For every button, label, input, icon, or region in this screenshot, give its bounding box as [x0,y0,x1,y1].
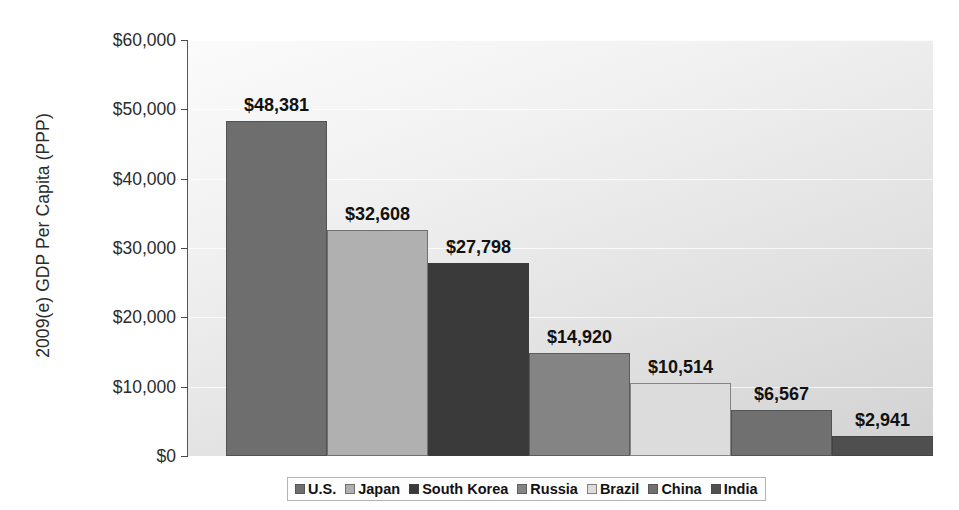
y-axis-tick-label: $10,000 [28,376,176,397]
legend-swatch-icon [409,484,419,494]
legend-item-south-korea[interactable]: South Korea [409,482,508,497]
bar-south-korea[interactable] [428,263,529,456]
y-axis-tick-label: $50,000 [28,99,176,120]
legend-item-china[interactable]: China [648,482,701,497]
legend-swatch-icon [517,484,527,494]
bar-value-label: $6,567 [754,384,809,405]
plot-area: $48,381$32,608$27,798$14,920$10,514$6,56… [188,40,933,456]
y-axis-tick-mark [181,248,188,249]
legend-label: Russia [530,482,578,497]
legend-item-russia[interactable]: Russia [517,482,578,497]
bar-india[interactable] [832,436,933,456]
legend-item-india[interactable]: India [711,482,758,497]
legend-label: China [661,482,701,497]
bar-value-label: $27,798 [446,237,511,258]
y-axis-tick-mark [181,387,188,388]
bar-value-label: $32,608 [345,204,410,225]
gdp-per-capita-bar-chart: 2009(e) GDP Per Capita (PPP) $0$10,000$2… [0,0,959,510]
legend-swatch-icon [648,484,658,494]
legend-label: U.S. [308,482,336,497]
bar-value-label: $48,381 [244,95,309,116]
y-axis-tick-mark [181,40,188,41]
y-axis-tick-label: $20,000 [28,307,176,328]
bar-brazil[interactable] [630,383,731,456]
legend-label: India [724,482,758,497]
y-axis-tick-label: $0 [28,446,176,467]
bar-china[interactable] [731,410,832,456]
y-axis-tick-labels: $0$10,000$20,000$30,000$40,000$50,000$60… [28,0,176,510]
bar-russia[interactable] [529,353,630,456]
legend-item-japan[interactable]: Japan [345,482,400,497]
bar-value-label: $10,514 [648,357,713,378]
legend-swatch-icon [587,484,597,494]
bar-u-s[interactable] [226,121,327,456]
bar-japan[interactable] [327,230,428,456]
y-axis-tick-mark [181,317,188,318]
bar-value-label: $14,920 [547,327,612,348]
y-axis-tick-label: $30,000 [28,238,176,259]
y-axis-tick-label: $60,000 [28,30,176,51]
legend-label: Brazil [600,482,640,497]
legend-swatch-icon [711,484,721,494]
legend-item-u-s[interactable]: U.S. [295,482,336,497]
y-axis-tick-mark [181,109,188,110]
bar-value-label: $2,941 [855,410,910,431]
legend-swatch-icon [295,484,305,494]
chart-legend: U.S.JapanSouth KoreaRussiaBrazilChinaInd… [287,477,766,501]
legend-label: South Korea [422,482,508,497]
y-axis-tick-mark [181,456,188,457]
legend-item-brazil[interactable]: Brazil [587,482,640,497]
y-axis-tick-mark [181,179,188,180]
legend-label: Japan [358,482,400,497]
legend-swatch-icon [345,484,355,494]
gridline [188,40,933,41]
y-axis-tick-label: $40,000 [28,168,176,189]
